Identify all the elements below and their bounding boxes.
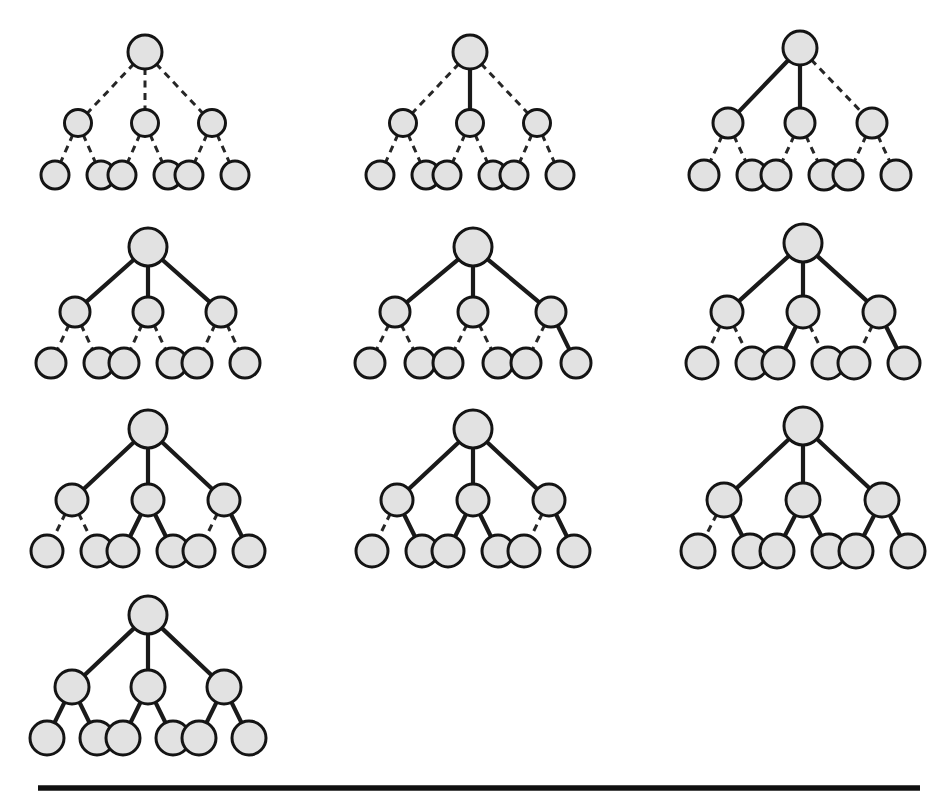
internal-node-3[interactable] <box>865 483 899 517</box>
leaf-node-5[interactable] <box>182 348 212 378</box>
leaf-node-5[interactable] <box>183 535 215 567</box>
internal-node-3[interactable] <box>533 484 565 516</box>
internal-node-3[interactable] <box>208 484 240 516</box>
leaf-node-3[interactable] <box>432 535 464 567</box>
edge-child-3-to-leaf-1 <box>206 513 218 537</box>
internal-node-1[interactable] <box>707 483 741 517</box>
internal-node-1[interactable] <box>390 110 417 137</box>
leaf-node-3[interactable] <box>109 348 139 378</box>
leaf-node-1[interactable] <box>686 347 718 379</box>
internal-node-3[interactable] <box>207 670 241 704</box>
internal-node-2[interactable] <box>132 110 159 137</box>
leaf-node-5[interactable] <box>839 534 873 568</box>
internal-node-2[interactable] <box>133 297 163 327</box>
tree-panel-2[interactable] <box>366 35 574 189</box>
internal-node-1[interactable] <box>380 297 410 327</box>
internal-node-2[interactable] <box>786 483 820 517</box>
edge-root-to-child-3 <box>481 64 528 114</box>
leaf-node-3[interactable] <box>760 534 794 568</box>
leaf-node-5[interactable] <box>508 535 540 567</box>
root-node[interactable] <box>454 410 492 448</box>
root-node[interactable] <box>453 35 487 69</box>
leaf-node-6[interactable] <box>561 348 591 378</box>
internal-node-3[interactable] <box>524 110 551 137</box>
leaf-node-5[interactable] <box>182 721 216 755</box>
root-node[interactable] <box>454 228 492 266</box>
root-node[interactable] <box>129 228 167 266</box>
leaf-node-6[interactable] <box>230 348 260 378</box>
leaf-node-6[interactable] <box>221 161 249 189</box>
tree-panel-3[interactable] <box>689 31 911 190</box>
internal-node-1[interactable] <box>55 670 89 704</box>
leaf-node-4[interactable] <box>483 348 513 378</box>
leaf-node-5[interactable] <box>838 347 870 379</box>
internal-node-3[interactable] <box>199 110 226 137</box>
tree-panel-10[interactable] <box>30 596 266 755</box>
internal-node-2[interactable] <box>131 670 165 704</box>
tree-panel-5[interactable] <box>355 228 591 378</box>
leaf-node-5[interactable] <box>833 160 863 190</box>
leaf-node-1[interactable] <box>356 535 388 567</box>
leaf-node-6[interactable] <box>891 534 925 568</box>
internal-node-2[interactable] <box>785 108 815 138</box>
leaf-node-5[interactable] <box>511 348 541 378</box>
internal-node-2[interactable] <box>132 484 164 516</box>
internal-node-1[interactable] <box>713 108 743 138</box>
leaf-node-3[interactable] <box>433 348 463 378</box>
leaf-node-5[interactable] <box>500 161 528 189</box>
edge-child-3-to-leaf-1 <box>519 134 532 163</box>
internal-node-1[interactable] <box>711 296 743 328</box>
internal-node-3[interactable] <box>206 297 236 327</box>
internal-node-3[interactable] <box>857 108 887 138</box>
leaf-node-6[interactable] <box>233 535 265 567</box>
leaf-node-1[interactable] <box>681 534 715 568</box>
internal-node-1[interactable] <box>381 484 413 516</box>
internal-node-1[interactable] <box>65 110 92 137</box>
leaf-node-3[interactable] <box>107 535 139 567</box>
leaf-node-6[interactable] <box>881 160 911 190</box>
edge-child-3-to-leaf-2 <box>878 136 890 163</box>
tree-panel-8[interactable] <box>356 410 590 567</box>
leaf-node-3[interactable] <box>761 160 791 190</box>
root-node[interactable] <box>784 407 822 445</box>
internal-node-3[interactable] <box>536 297 566 327</box>
leaf-node-1[interactable] <box>36 348 66 378</box>
tree-panel-6[interactable] <box>686 224 920 379</box>
leaf-node-6[interactable] <box>558 535 590 567</box>
edge-child-1-to-leaf-1 <box>379 513 391 537</box>
leaf-node-3[interactable] <box>433 161 461 189</box>
internal-node-3[interactable] <box>863 296 895 328</box>
root-node[interactable] <box>129 410 167 448</box>
tree-panel-1[interactable] <box>41 35 249 189</box>
internal-node-2[interactable] <box>457 484 489 516</box>
leaf-node-1[interactable] <box>366 161 394 189</box>
leaf-node-6[interactable] <box>888 347 920 379</box>
root-node[interactable] <box>128 35 162 69</box>
leaf-node-5[interactable] <box>175 161 203 189</box>
root-node[interactable] <box>784 224 822 262</box>
leaf-node-1[interactable] <box>355 348 385 378</box>
edge-child-1-to-leaf-2 <box>79 513 91 537</box>
leaf-node-3[interactable] <box>106 721 140 755</box>
internal-node-1[interactable] <box>60 297 90 327</box>
leaf-node-1[interactable] <box>30 721 64 755</box>
leaf-node-3[interactable] <box>108 161 136 189</box>
tree-panel-4[interactable] <box>36 228 260 378</box>
leaf-node-3[interactable] <box>762 347 794 379</box>
leaf-node-2[interactable] <box>405 348 435 378</box>
leaf-node-1[interactable] <box>41 161 69 189</box>
leaf-node-6[interactable] <box>546 161 574 189</box>
tree-panel-9[interactable] <box>681 407 925 568</box>
leaf-node-1[interactable] <box>31 535 63 567</box>
edge-root-to-child-3 <box>811 60 862 113</box>
tree-panel-7[interactable] <box>31 410 265 567</box>
root-node[interactable] <box>783 31 817 65</box>
edge-child-3-to-leaf-1 <box>863 514 874 536</box>
root-node[interactable] <box>129 596 167 634</box>
internal-node-2[interactable] <box>457 110 484 137</box>
internal-node-2[interactable] <box>787 296 819 328</box>
leaf-node-6[interactable] <box>232 721 266 755</box>
internal-node-1[interactable] <box>56 484 88 516</box>
internal-node-2[interactable] <box>458 297 488 327</box>
leaf-node-1[interactable] <box>689 160 719 190</box>
